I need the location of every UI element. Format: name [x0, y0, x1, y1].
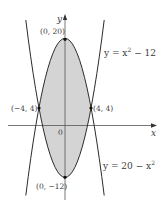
point-label-neg4-4: (−4, 4): [11, 104, 38, 113]
y-axis-label: y: [56, 14, 63, 24]
point-0-20: [63, 38, 66, 41]
point-label-4-4: (4, 4): [93, 104, 113, 113]
y-axis-arrow-icon: [63, 14, 67, 20]
equation-label-x-squared-minus-12: y = x2 − 12: [103, 46, 156, 58]
x-axis-label: x: [151, 128, 156, 138]
region-between-parabolas-diagram: y x 0 (0, 20) (−4, 4) (4, 4) (0, −12) y …: [0, 0, 167, 204]
point-0-neg12: [63, 176, 66, 179]
origin-label: 0: [58, 128, 63, 137]
equation-exponent: 2: [151, 159, 155, 166]
equation-label-20-minus-x-squared: y = 20 − x2: [102, 159, 155, 171]
equation-text: y = 20 − x: [102, 161, 151, 171]
point-label-0-20: (0, 20): [40, 27, 65, 36]
point-label-0-neg12: (0, −12): [36, 182, 67, 191]
equation-prefix: y = x: [103, 48, 127, 58]
equation-suffix: − 12: [131, 48, 156, 58]
point-neg4-4: [37, 106, 40, 109]
